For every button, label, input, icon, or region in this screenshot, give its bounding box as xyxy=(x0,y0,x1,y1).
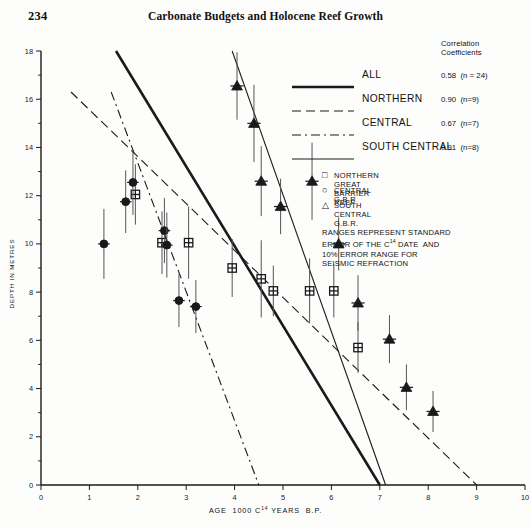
data-point-central-g-b-r xyxy=(127,150,139,215)
legend-notes: RANGES REPRESENT STANDARDERROR OF THE C1… xyxy=(322,228,451,269)
data-point-south-central-g-b-r xyxy=(255,146,268,216)
data-point-south-central-g-b-r xyxy=(351,275,364,330)
y-tick-label: 4 xyxy=(29,384,33,393)
legend-correlation-value: 0.90 (n=9) xyxy=(441,95,479,104)
correlation-heading-line2: Coefficients xyxy=(441,48,482,57)
data-point-northern-great-barrier-reef xyxy=(305,258,313,323)
running-head: 234 Carbonate Budgets and Holocene Reef … xyxy=(0,9,531,27)
data-point-central-g-b-r xyxy=(159,198,171,263)
data-point-south-central-g-b-r xyxy=(400,364,413,410)
scatter-plot-svg: 012345678910024681012141618 xyxy=(0,34,531,514)
y-tick-label: 8 xyxy=(29,288,33,297)
x-tick-label: 8 xyxy=(426,493,430,502)
x-axis-title: AGE 1000 C14 YEARS B.P. xyxy=(0,506,531,515)
x-tick-label: 3 xyxy=(184,493,188,502)
legend-note-line: 10% ERROR RANGE FOR xyxy=(322,250,418,259)
x-tick-label: 5 xyxy=(281,493,285,502)
legend-line-swatch xyxy=(292,123,354,126)
data-point-northern-great-barrier-reef xyxy=(257,240,265,317)
data-point-south-central-g-b-r xyxy=(383,315,396,363)
y-axis-title: DEPTH IN METRES xyxy=(8,229,15,319)
data-point-central-g-b-r xyxy=(161,213,173,278)
correlation-heading-line1: Correlation xyxy=(441,39,479,48)
x-tick-label: 4 xyxy=(233,493,237,502)
triangle-marker-icon: △ xyxy=(322,200,333,210)
data-point-south-central-g-b-r xyxy=(274,179,287,234)
y-tick-label: 12 xyxy=(25,191,33,200)
y-tick-label: 18 xyxy=(25,47,33,56)
x-tick-label: 2 xyxy=(136,493,140,502)
circle-marker-icon: ○ xyxy=(322,185,333,195)
correlation-heading: CorrelationCoefficients xyxy=(441,39,482,57)
data-point-northern-great-barrier-reef xyxy=(269,266,277,317)
square-marker-icon: □ xyxy=(322,170,333,180)
data-point-northern-great-barrier-reef xyxy=(330,264,338,317)
legend-line-swatch xyxy=(292,75,354,78)
figure-chart: 012345678910024681012141618 CorrelationC… xyxy=(0,34,531,514)
running-title: Carbonate Budgets and Holocene Reef Grow… xyxy=(0,10,531,22)
x-tick-label: 7 xyxy=(378,493,382,502)
legend-label: ALL xyxy=(362,69,381,80)
data-point-south-central-g-b-r xyxy=(247,85,260,162)
data-point-south-central-g-b-r xyxy=(305,143,318,220)
data-point-central-g-b-r xyxy=(190,280,202,333)
x-tick-label: 10 xyxy=(521,493,529,502)
x-tick-label: 9 xyxy=(475,493,479,502)
legend-note-line: ERROR OF THE C14 DATE AND xyxy=(322,240,439,249)
legend-line-swatch xyxy=(292,147,354,150)
data-point-northern-great-barrier-reef xyxy=(184,207,192,279)
x-tick-label: 6 xyxy=(329,493,333,502)
legend-correlation-value: 0.58 (n = 24) xyxy=(441,71,488,80)
data-point-central-g-b-r xyxy=(98,209,110,279)
x-tick-label: 0 xyxy=(39,493,43,502)
y-tick-label: 14 xyxy=(25,143,33,152)
legend-correlation-value: 0.67 (n=7) xyxy=(441,119,479,128)
legend-label: SOUTH CENTRAL xyxy=(362,141,453,152)
legend-line-swatch xyxy=(292,99,354,102)
legend-correlation-value: 0.91 (n=8) xyxy=(441,143,479,152)
data-point-northern-great-barrier-reef xyxy=(131,164,139,224)
y-tick-label: 10 xyxy=(25,239,33,248)
y-tick-label: 2 xyxy=(29,432,33,441)
page-canvas: 234 Carbonate Budgets and Holocene Reef … xyxy=(0,0,531,527)
y-tick-label: 0 xyxy=(29,481,33,490)
y-tick-label: 16 xyxy=(25,95,33,104)
legend-symbol-label: SOUTH CENTRAL G.B.R. xyxy=(334,201,371,228)
legend-note-line: SEISMIC REFRACTION xyxy=(322,259,408,268)
x-tick-label: 1 xyxy=(87,493,91,502)
legend-label: CENTRAL xyxy=(362,117,412,128)
y-tick-label: 6 xyxy=(29,336,33,345)
legend-label: NORTHERN xyxy=(362,93,422,104)
data-point-south-central-g-b-r xyxy=(230,52,243,120)
data-point-south-central-g-b-r xyxy=(426,391,439,432)
legend-note-line: RANGES REPRESENT STANDARD xyxy=(322,228,451,237)
